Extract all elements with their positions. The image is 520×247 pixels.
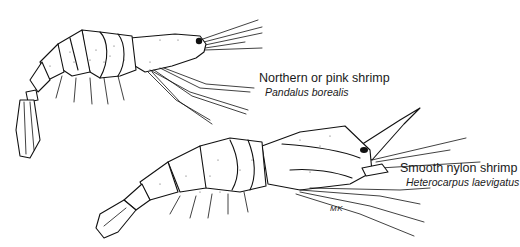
shrimp-illustration bbox=[0, 0, 520, 247]
nylon-shrimp-scientific-name: Heterocarpus laevigatus bbox=[406, 177, 519, 188]
nylon-shrimp-common-name: Smooth nylon shrimp bbox=[400, 162, 519, 175]
northern-shrimp-drawing bbox=[16, 20, 262, 158]
northern-shrimp-scientific-name: Pandalus borealis bbox=[265, 87, 390, 98]
nylon-shrimp-caption: Smooth nylon shrimp Heterocarpus laeviga… bbox=[400, 162, 519, 187]
artist-signature: MK bbox=[330, 204, 343, 213]
northern-shrimp-caption: Northern or pink shrimp Pandalus boreali… bbox=[259, 72, 390, 97]
northern-shrimp-common-name: Northern or pink shrimp bbox=[259, 72, 390, 85]
